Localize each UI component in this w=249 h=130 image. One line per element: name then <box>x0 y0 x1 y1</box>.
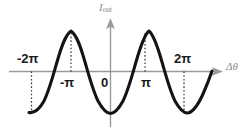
y-axis <box>106 18 115 127</box>
tick-label-2pi: 2π <box>174 52 191 65</box>
tick-label-pi: π <box>141 76 151 89</box>
sinusoid-figure: Iout Δθ -2π -π 0 π 2π <box>0 0 249 130</box>
tick-label-zero: 0 <box>101 76 108 89</box>
x-axis <box>9 67 223 76</box>
tick-label-minus-pi: -π <box>60 76 74 89</box>
tick-label-minus-2pi: -2π <box>17 52 39 65</box>
y-axis-label-subscript: out <box>103 5 112 14</box>
y-axis-label: Iout <box>99 2 112 14</box>
x-axis-label: Δθ <box>226 61 238 72</box>
